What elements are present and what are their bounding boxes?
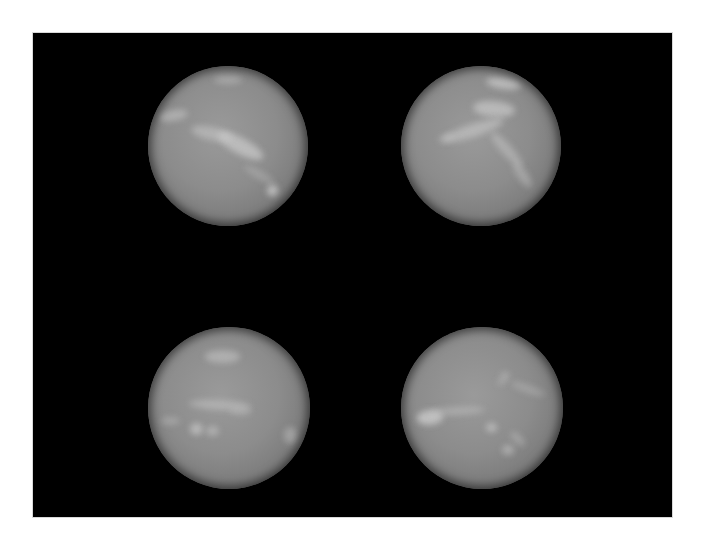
cloud-feature bbox=[158, 108, 188, 124]
cloud-feature bbox=[214, 76, 243, 84]
cloud-feature bbox=[205, 350, 241, 363]
cloud-feature bbox=[206, 426, 219, 436]
cloud-feature bbox=[229, 407, 252, 415]
planet-disc-bottom-left bbox=[148, 327, 310, 489]
cloud-feature bbox=[437, 132, 455, 145]
black-panel bbox=[33, 33, 672, 517]
cloud-feature bbox=[190, 423, 203, 434]
image-canvas: Four grayscale telescope images of Neptu… bbox=[0, 0, 706, 543]
image-caption: Four grayscale telescope images of Neptu… bbox=[0, 0, 1, 1]
cloud-feature bbox=[243, 163, 277, 188]
cloud-feature bbox=[267, 185, 278, 196]
cloud-feature bbox=[485, 76, 521, 92]
cloud-feature bbox=[497, 379, 507, 385]
cloud-feature bbox=[502, 445, 513, 455]
cloud-feature bbox=[509, 379, 545, 399]
cloud-feature bbox=[284, 427, 297, 443]
planet-disc-bottom-right bbox=[401, 327, 563, 489]
cloud-feature bbox=[487, 129, 525, 170]
planet-disc-top-left bbox=[148, 66, 308, 226]
cloud-feature bbox=[190, 123, 233, 144]
planet-disc-top-right bbox=[401, 66, 561, 226]
cloud-feature bbox=[472, 99, 515, 119]
cloud-feature bbox=[161, 417, 180, 425]
cloud-feature bbox=[486, 423, 497, 433]
